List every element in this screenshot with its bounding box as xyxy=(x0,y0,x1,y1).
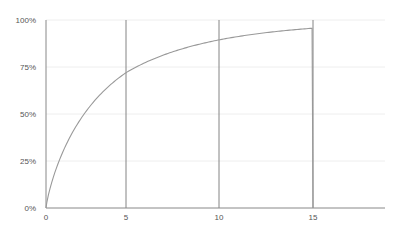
x-tick-label: 15 xyxy=(309,213,318,222)
y-tick-label: 0% xyxy=(24,204,36,213)
x-tick-label: 5 xyxy=(124,213,129,222)
data-curve xyxy=(46,28,313,208)
y-tick-label: 50% xyxy=(20,110,36,119)
x-tick-label: 10 xyxy=(215,213,224,222)
x-axis-tick-labels: 051015 xyxy=(44,213,318,222)
line-chart: 0%25%50%75%100% 051015 xyxy=(0,0,405,235)
y-tick-label: 25% xyxy=(20,157,36,166)
y-tick-label: 100% xyxy=(16,16,36,25)
y-tick-label: 75% xyxy=(20,63,36,72)
y-axis-tick-labels: 0%25%50%75%100% xyxy=(16,16,36,213)
x-tick-label: 0 xyxy=(44,213,49,222)
